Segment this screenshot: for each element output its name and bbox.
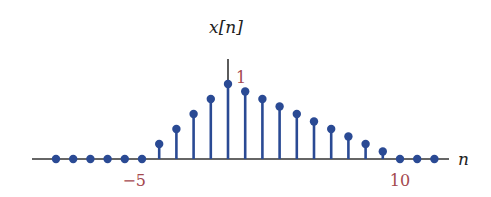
stem-marker: [275, 102, 283, 110]
stem-marker: [86, 155, 94, 163]
x-axis-label: n: [458, 149, 469, 169]
stem-point: [327, 125, 335, 159]
stem-point: [138, 155, 146, 163]
stem-point: [310, 117, 318, 159]
stem-marker: [224, 80, 232, 88]
stem-point: [69, 155, 77, 163]
stem-marker: [121, 155, 129, 163]
stem-marker: [103, 155, 111, 163]
stem-point: [52, 155, 60, 163]
stem-marker: [327, 125, 335, 133]
stem-marker: [344, 132, 352, 140]
y-tick-label: 1: [236, 68, 246, 87]
y-tick-labels: 1: [236, 68, 246, 87]
stem-plot: x[n] n −510 1: [0, 0, 491, 197]
stem-marker: [189, 110, 197, 118]
stem-point: [396, 155, 404, 163]
y-axis-label: x[n]: [209, 17, 243, 37]
stem-marker: [172, 125, 180, 133]
stem-point: [275, 102, 283, 159]
stem-marker: [241, 87, 249, 95]
stem-marker: [361, 140, 369, 148]
stem-point: [224, 80, 232, 159]
stem-marker: [155, 140, 163, 148]
stem-marker: [52, 155, 60, 163]
stem-point: [103, 155, 111, 163]
x-tick-label: 10: [390, 171, 410, 190]
stem-marker: [310, 117, 318, 125]
stem-point: [413, 155, 421, 163]
x-tick-label: −5: [122, 171, 146, 190]
stem-point: [155, 140, 163, 159]
stem-point: [86, 155, 94, 163]
stem-point: [207, 95, 215, 159]
stem-point: [344, 132, 352, 159]
stem-point: [258, 95, 266, 159]
stem-marker: [430, 155, 438, 163]
stem-marker: [293, 110, 301, 118]
stem-point: [172, 125, 180, 159]
stem-marker: [379, 147, 387, 155]
stem-point: [293, 110, 301, 159]
stem-marker: [258, 95, 266, 103]
stem-point: [241, 87, 249, 159]
stem-point: [379, 147, 387, 159]
stem-point: [121, 155, 129, 163]
stem-marker: [207, 95, 215, 103]
stem-marker: [396, 155, 404, 163]
stem-marker: [138, 155, 146, 163]
x-tick-labels: −510: [122, 171, 410, 190]
stem-marker: [413, 155, 421, 163]
stem-point: [430, 155, 438, 163]
stem-point: [361, 140, 369, 159]
stems: [52, 80, 439, 163]
stem-point: [189, 110, 197, 159]
stem-marker: [69, 155, 77, 163]
